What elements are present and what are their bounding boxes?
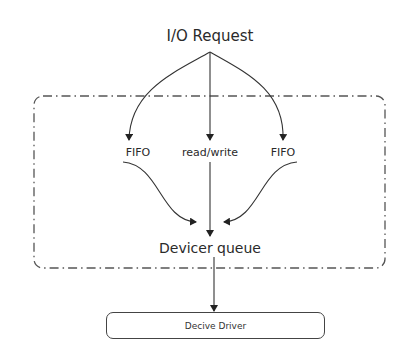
io-request-node: I/O Request <box>167 27 254 45</box>
diagram-canvas <box>0 0 409 363</box>
edge-fifo-right-to-queue <box>224 162 297 222</box>
fifo-left-node: FIFO <box>126 146 151 159</box>
fifo-right-node: FIFO <box>271 146 296 159</box>
device-driver-label: Decive Driver <box>185 321 246 331</box>
read-write-node: read/write <box>182 146 238 159</box>
device-queue-node: Devicer queue <box>159 240 261 256</box>
device-driver-node: Decive Driver <box>106 312 325 339</box>
edge-fifo-left-to-queue <box>123 162 196 222</box>
